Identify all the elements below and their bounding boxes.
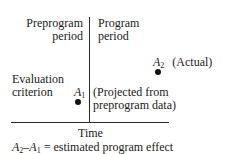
time-label: Time bbox=[78, 127, 103, 140]
a2-sub: 2 bbox=[160, 61, 164, 70]
vertical-divider bbox=[89, 17, 90, 122]
preprogram-line2: period bbox=[20, 30, 83, 43]
caption: A2–A1 = estimated program effect bbox=[12, 141, 173, 154]
caption-a1: A bbox=[29, 140, 36, 154]
program-period-label: Program period bbox=[98, 17, 139, 43]
a2-point bbox=[155, 69, 161, 75]
y-label-line2: criterion bbox=[12, 86, 64, 99]
a1-note-line2: preprogram data) bbox=[93, 99, 176, 112]
a1-point bbox=[75, 99, 81, 105]
a2-label: A2 (Actual) bbox=[153, 56, 212, 72]
a1-sub: 1 bbox=[81, 91, 85, 100]
program-line2: period bbox=[98, 30, 139, 43]
a2-note: (Actual) bbox=[172, 55, 212, 69]
preprogram-period-label: Preprogram period bbox=[20, 17, 83, 43]
caption-rest: = estimated program effect bbox=[41, 140, 174, 154]
a1-note: (Projected from preprogram data) bbox=[93, 86, 176, 112]
time-axis bbox=[11, 122, 169, 123]
evaluation-criterion-label: Evaluation criterion bbox=[12, 73, 64, 99]
